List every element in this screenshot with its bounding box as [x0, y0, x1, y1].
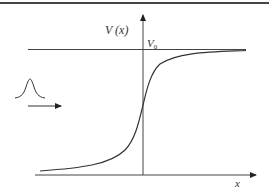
- diagram-svg: [0, 0, 269, 193]
- potential-label: V (x): [105, 24, 128, 36]
- v0-label: V0: [147, 38, 157, 51]
- diagram-canvas: V (x) V0 x: [0, 0, 269, 193]
- v0-label-subscript: 0: [154, 43, 158, 51]
- x-axis-label: x: [235, 178, 240, 189]
- v0-label-main: V: [147, 37, 154, 49]
- wave-packet-icon: [15, 79, 45, 98]
